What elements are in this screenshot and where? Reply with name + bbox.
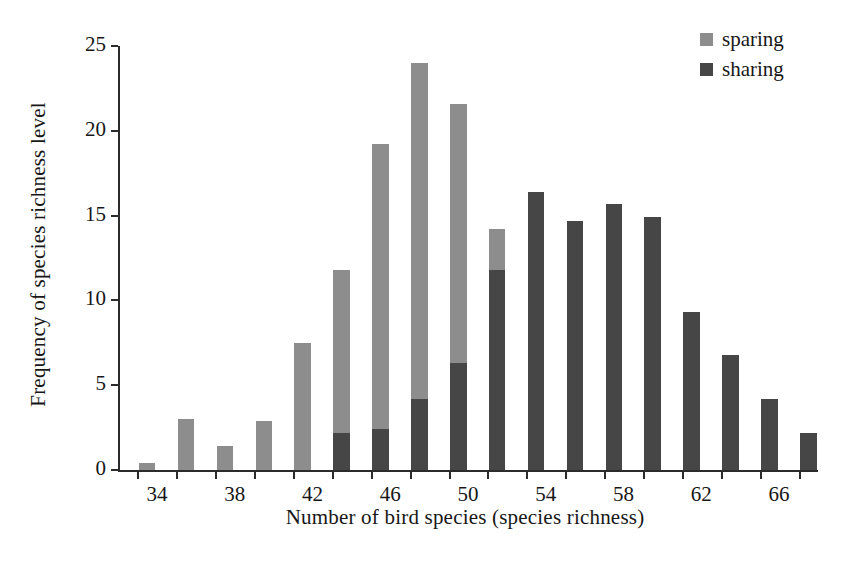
x-axis-tick-label: 66 (769, 482, 790, 507)
y-axis-tick: 25 (111, 45, 118, 47)
bar-sharing-44 (333, 433, 350, 470)
bar-sharing-46 (372, 429, 389, 470)
legend-label: sparing (722, 27, 784, 52)
y-axis-tick-label: 5 (96, 371, 107, 396)
x-axis-tick (449, 470, 451, 479)
bar-sharing-56 (567, 221, 584, 470)
bar-sparing-46 (372, 144, 389, 470)
x-axis-tick (643, 470, 645, 479)
x-axis-tick (682, 470, 684, 479)
legend-label: sharing (722, 57, 784, 82)
y-axis-tick: 15 (111, 215, 118, 217)
x-axis-tick (254, 470, 256, 479)
x-axis-tick-label: 54 (535, 482, 556, 507)
x-axis-tick (137, 470, 139, 479)
y-axis-title: Frequency of species richness level (26, 45, 51, 465)
x-axis-tick (215, 470, 217, 479)
x-axis-tick-label: 58 (613, 482, 634, 507)
x-axis-tick (371, 470, 373, 479)
legend-swatch-icon (700, 63, 713, 76)
x-axis-line (118, 470, 818, 472)
bar-sharing-68 (800, 433, 817, 470)
x-axis-tick (760, 470, 762, 479)
legend-item-sparing: sparing (700, 24, 848, 54)
x-axis-tick-label: 42 (302, 482, 323, 507)
x-axis-tick-label: 50 (458, 482, 479, 507)
chart-legend: sparingsharing (700, 24, 848, 84)
y-axis-tick: 10 (111, 299, 118, 301)
x-axis-title: Number of bird species (species richness… (110, 505, 820, 530)
x-axis-tick-label: 34 (146, 482, 167, 507)
x-axis-tick (293, 470, 295, 479)
x-axis-tick (487, 470, 489, 479)
y-axis-tick: 0 (111, 469, 118, 471)
y-axis-tick: 5 (111, 384, 118, 386)
bar-sharing-50 (450, 363, 467, 470)
x-axis-tick (721, 470, 723, 479)
legend-item-sharing: sharing (700, 54, 848, 84)
x-axis-tick (604, 470, 606, 479)
x-axis-tick-label: 38 (224, 482, 245, 507)
bar-sparing-42 (294, 343, 311, 470)
y-axis-tick-label: 15 (85, 202, 106, 227)
bar-sharing-66 (761, 399, 778, 470)
x-axis-tick-label: 46 (380, 482, 401, 507)
x-axis-tick (799, 470, 801, 479)
x-axis-tick (410, 470, 412, 479)
bar-sharing-62 (683, 312, 700, 470)
x-axis-tick (526, 470, 528, 479)
bar-sparing-40 (256, 421, 273, 470)
y-axis-tick-label: 25 (85, 32, 106, 57)
bar-sparing-38 (217, 446, 234, 470)
x-axis-tick-label: 62 (691, 482, 712, 507)
legend-swatch-icon (700, 33, 713, 46)
bar-sharing-48 (411, 399, 428, 470)
bar-chart-figure: Frequency of species richness level 0510… (0, 0, 848, 567)
bar-sharing-58 (606, 204, 623, 470)
bar-sharing-64 (722, 355, 739, 470)
y-axis-tick-label: 10 (85, 286, 106, 311)
y-axis-tick-label: 20 (85, 117, 106, 142)
y-axis-tick: 20 (111, 130, 118, 132)
bar-sharing-60 (644, 217, 661, 470)
bar-sharing-52 (489, 270, 506, 470)
plot-area: 0510152025 343842465054586266 (118, 46, 818, 470)
x-axis-tick (565, 470, 567, 479)
y-axis-tick-label: 0 (96, 456, 107, 481)
x-axis-tick (176, 470, 178, 479)
bar-sparing-36 (178, 419, 195, 470)
x-axis-tick (332, 470, 334, 479)
bar-sharing-54 (528, 192, 545, 470)
y-axis-line (118, 46, 120, 470)
bar-sparing-34 (139, 463, 156, 470)
